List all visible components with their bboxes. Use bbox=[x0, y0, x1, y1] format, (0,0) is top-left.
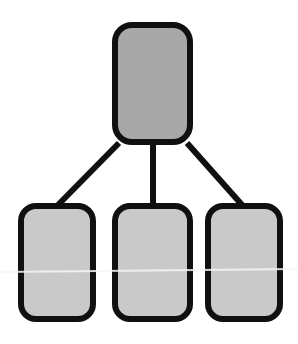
node-child-left[interactable] bbox=[21, 206, 93, 319]
node-child-right-shape[interactable] bbox=[208, 206, 280, 319]
node-child-middle-shape[interactable] bbox=[115, 206, 190, 319]
connector-root-to-left-child bbox=[57, 143, 119, 206]
node-child-left-shape[interactable] bbox=[21, 206, 93, 319]
connector-root-to-right-child bbox=[187, 143, 243, 206]
node-child-right[interactable] bbox=[208, 206, 280, 319]
node-root[interactable] bbox=[115, 25, 190, 142]
node-child-middle[interactable] bbox=[115, 206, 190, 319]
connector-group bbox=[57, 143, 243, 206]
node-root-shape[interactable] bbox=[115, 25, 190, 142]
hierarchy-diagram bbox=[0, 0, 298, 344]
diagram-canvas bbox=[0, 0, 298, 344]
